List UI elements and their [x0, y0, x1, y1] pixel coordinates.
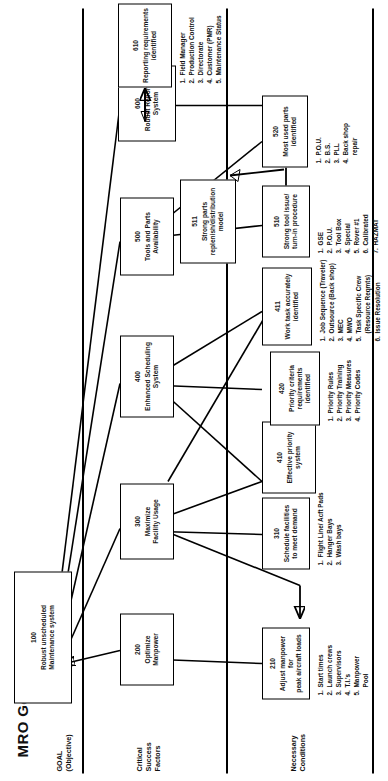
goal-tree-canvas: MRO Goal Tree GOAL (Objective) Critical … — [0, 0, 388, 781]
diagram-viewport: MRO Goal Tree GOAL (Objective) Critical … — [0, 0, 388, 781]
connector-610-600 — [0, 0, 388, 781]
